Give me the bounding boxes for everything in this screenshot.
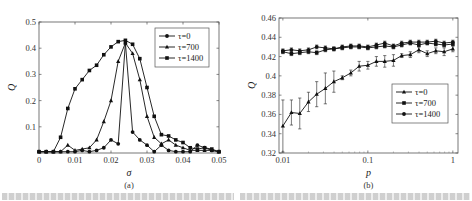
y-tick-label: 0.3: [25, 69, 36, 79]
x-tick-label: 0: [37, 155, 41, 165]
circle-marker: [425, 40, 429, 44]
x-tick-label: 0.03: [140, 155, 155, 165]
legend-entry-label: τ=700: [178, 42, 199, 52]
square-marker: [152, 115, 156, 119]
circle-marker: [349, 44, 353, 48]
y-tick-label: 0.32: [261, 148, 276, 158]
square-marker: [131, 42, 135, 46]
circle-marker: [298, 49, 302, 53]
legend-entry-label: τ=700: [415, 98, 436, 108]
x-tick-label: 0.02: [104, 155, 119, 165]
x-tick-label: 0.05: [212, 155, 227, 165]
square-marker: [160, 133, 164, 137]
square-marker: [188, 146, 192, 150]
triangle-marker: [116, 59, 120, 63]
legend-circle-icon: [402, 112, 406, 116]
square-marker: [102, 53, 106, 57]
triangle-marker: [167, 138, 171, 142]
panel-sub-label: (a): [124, 180, 134, 190]
square-marker: [196, 147, 200, 151]
circle-marker: [366, 45, 370, 49]
square-marker: [290, 52, 294, 56]
square-marker: [109, 45, 113, 49]
square-marker: [88, 69, 92, 73]
square-marker: [145, 86, 149, 90]
square-marker: [217, 150, 221, 154]
circle-marker: [66, 150, 70, 154]
circle-marker: [374, 43, 378, 47]
circle-marker: [451, 40, 455, 44]
square-marker: [167, 134, 171, 138]
square-marker: [44, 150, 48, 154]
square-marker: [73, 87, 77, 91]
triangle-marker: [152, 135, 156, 139]
square-marker: [66, 107, 70, 111]
circle-marker: [442, 41, 446, 45]
triangle-marker: [417, 48, 421, 52]
circle-marker: [357, 44, 361, 48]
y-tick-label: 0.36: [261, 109, 276, 119]
legend: τ=0τ=700τ=1400: [392, 84, 448, 123]
y-tick-label: 0.1: [25, 122, 36, 132]
figure-caption-right: [240, 193, 470, 200]
triangle-marker: [66, 143, 70, 147]
square-marker: [174, 138, 178, 142]
triangle-marker: [289, 110, 293, 114]
y-tick-label: 0.4: [25, 43, 36, 53]
y-tick-label: 0.34: [261, 129, 277, 139]
x-tick-label: 0.04: [176, 155, 192, 165]
circle-marker: [281, 49, 285, 53]
circle-marker: [181, 150, 185, 154]
y-axis-label: Q: [246, 81, 257, 89]
triangle-marker: [95, 138, 99, 142]
chart-panel-b: 0.010.110.320.340.360.380.40.420.440.46p…: [236, 0, 472, 190]
square-marker: [203, 146, 207, 150]
y-tick-label: 0.44: [261, 32, 277, 42]
legend-entry-label: τ=0: [178, 31, 190, 41]
circle-marker: [417, 40, 421, 44]
circle-marker: [138, 138, 142, 142]
chart-panel-a: 00.010.020.030.040.050.10.20.30.40.5σQ(a…: [0, 0, 236, 190]
square-marker: [124, 39, 128, 43]
circle-marker: [174, 150, 178, 154]
y-tick-label: 0.38: [261, 90, 276, 100]
y-tick-label: 0.5: [25, 17, 36, 27]
circle-marker: [383, 41, 387, 45]
legend-square-icon: [402, 101, 406, 105]
circle-marker: [290, 48, 294, 52]
circle-marker: [95, 148, 99, 152]
circle-marker: [116, 142, 120, 146]
y-axis-label: Q: [6, 83, 17, 91]
circle-marker: [131, 130, 135, 134]
triangle-marker: [102, 119, 106, 123]
circle-marker: [196, 143, 200, 147]
x-axis-label: σ: [127, 167, 133, 178]
chart-b-svg: 0.010.110.320.340.360.380.40.420.440.46p…: [236, 0, 472, 190]
circle-marker: [167, 148, 171, 152]
circle-marker: [88, 150, 92, 154]
circle-marker: [315, 45, 319, 49]
triangle-marker: [451, 47, 455, 51]
circle-marker: [307, 48, 311, 52]
square-marker: [181, 141, 185, 145]
legend: τ=0τ=700τ=1400: [155, 28, 209, 67]
triangle-marker: [138, 77, 142, 81]
y-tick-label: 0.2: [25, 96, 36, 106]
square-marker: [80, 78, 84, 82]
x-tick-label: 0.01: [275, 155, 290, 165]
square-marker: [138, 57, 142, 61]
triangle-marker: [434, 48, 438, 52]
x-tick-label: 0.01: [68, 155, 83, 165]
square-marker: [210, 147, 214, 151]
square-marker: [315, 51, 319, 55]
legend-entry-label: τ=0: [415, 87, 427, 97]
y-tick-label: 0.46: [261, 13, 276, 23]
square-marker: [95, 63, 99, 67]
circle-marker: [152, 150, 156, 154]
circle-marker: [434, 39, 438, 43]
figure-caption-left: [2, 193, 234, 200]
circle-marker: [408, 40, 412, 44]
circle-marker: [400, 41, 404, 45]
circle-marker: [392, 44, 396, 48]
circle-marker: [332, 47, 336, 51]
